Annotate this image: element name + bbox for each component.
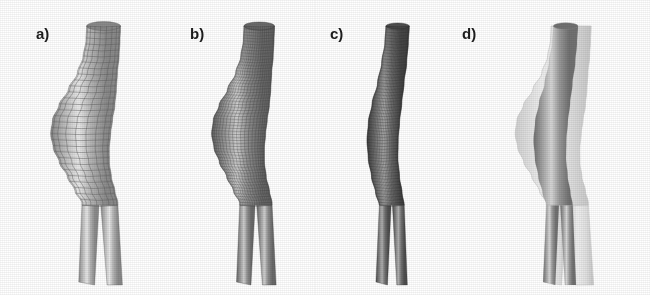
vessel-holder-a (0, 0, 170, 295)
vessel-holder-d (455, 0, 650, 295)
vessel-render-a (0, 0, 170, 295)
panel-label-a: a) (36, 26, 49, 41)
panel-label-d: d) (462, 26, 476, 41)
vessel-holder-b (170, 0, 315, 295)
figure-canvas: a)b)c)d) (0, 0, 650, 295)
panel-c: c) (315, 0, 455, 295)
proximal-cut-plane (553, 23, 578, 29)
panel-a: a) (0, 0, 170, 295)
panel-b: b) (170, 0, 315, 295)
proximal-cut-plane (87, 22, 121, 31)
vessel-group-b (212, 22, 277, 285)
vessel-holder-c (315, 0, 455, 295)
vessel-group-a (51, 22, 123, 285)
iliac-bifurcation-branches (79, 205, 123, 285)
panel-d: d) (455, 0, 650, 295)
vessel-render-c (315, 0, 455, 295)
iliac-bifurcation-branches (376, 205, 407, 285)
iliac-bifurcation-branches (237, 205, 277, 285)
panel-label-b: b) (190, 26, 204, 41)
vessel-render-b (170, 0, 315, 295)
vessel-group-d (515, 23, 593, 285)
panel-label-c: c) (330, 26, 343, 41)
vessel-group-c (367, 23, 409, 285)
proximal-cut-plane (244, 22, 275, 30)
vessel-render-d (455, 0, 650, 295)
